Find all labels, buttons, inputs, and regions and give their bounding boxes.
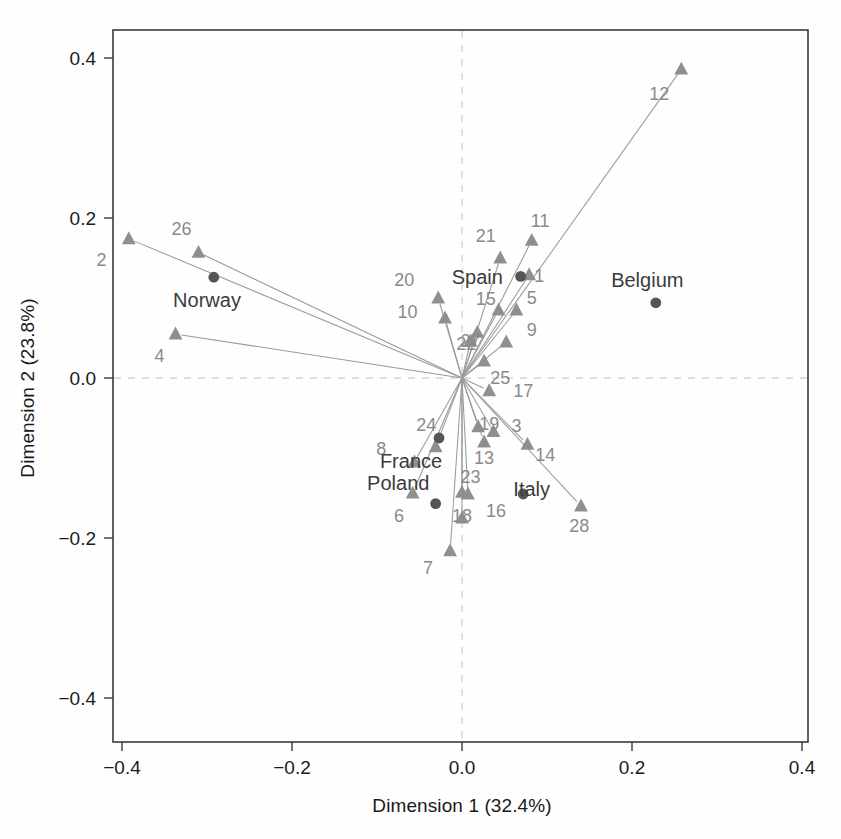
individual-label: Italy — [513, 478, 550, 500]
variable-label: 10 — [398, 302, 418, 322]
x-axis-title: Dimension 1 (32.4%) — [372, 795, 551, 816]
variable-label: 7 — [423, 558, 433, 578]
individual-label: Poland — [367, 472, 429, 494]
variable-label: 27 — [460, 331, 480, 351]
variable-label: 20 — [394, 270, 414, 290]
variable-label: 17 — [513, 381, 533, 401]
x-tick-label: −0.4 — [103, 757, 141, 778]
individual-marker-dot — [515, 271, 526, 282]
variable-marker-triangle — [443, 543, 457, 556]
variable-marker-triangle — [525, 233, 539, 246]
variable-marker-triangle — [499, 335, 513, 348]
y-tick-label: 0.0 — [70, 368, 96, 389]
zero-reference-lines — [114, 31, 807, 741]
variable-label: 9 — [527, 320, 537, 340]
variable-label: 14 — [535, 445, 555, 465]
variable-marker-triangle — [122, 231, 136, 244]
variable-label: 3 — [511, 416, 521, 436]
scatter-plot-canvas[interactable]: −0.4−0.20.00.20.4−0.4−0.20.00.20.4 22642… — [0, 0, 841, 839]
variable-label: 25 — [490, 368, 510, 388]
variable-label: 16 — [486, 501, 506, 521]
individual-labels: NorwaySpainBelgiumFrancePolandItaly — [173, 266, 683, 500]
individual-label: Spain — [452, 266, 503, 288]
variable-label: 11 — [531, 211, 550, 231]
plot-frame — [113, 30, 808, 742]
y-tick-label: 0.2 — [70, 208, 96, 229]
y-tick-label: −0.4 — [58, 688, 96, 709]
variable-label: 6 — [394, 506, 404, 526]
variable-label: 21 — [476, 226, 496, 246]
individual-marker-dot — [208, 272, 219, 283]
variable-marker-triangle — [169, 327, 183, 340]
individual-label: Belgium — [611, 269, 683, 291]
variable-label: 19 — [479, 414, 499, 434]
x-tick-label: 0.4 — [789, 757, 816, 778]
variable-label: 4 — [154, 346, 164, 366]
individual-markers — [208, 271, 661, 509]
axis-ticks — [104, 58, 802, 751]
variable-label: 12 — [649, 84, 669, 104]
individual-marker-dot — [430, 498, 441, 509]
individual-label: France — [380, 450, 442, 472]
variable-label: 15 — [476, 289, 496, 309]
individual-marker-dot — [434, 433, 445, 444]
variable-marker-triangle — [493, 251, 507, 264]
variable-label: 13 — [474, 448, 494, 468]
variable-label: 23 — [460, 467, 480, 487]
variable-marker-triangle — [192, 245, 206, 258]
individual-label: Norway — [173, 289, 241, 311]
variable-label: 1 — [534, 266, 544, 286]
variable-label: 28 — [569, 516, 589, 536]
biplot-figure: −0.4−0.20.00.20.4−0.4−0.20.00.20.4 22642… — [0, 0, 841, 839]
variable-label: 2 — [97, 250, 107, 270]
y-axis-title: Dimension 2 (23.8%) — [17, 298, 38, 477]
variable-marker-triangle — [438, 311, 452, 324]
x-tick-label: 0.2 — [619, 757, 645, 778]
y-tick-label: 0.4 — [70, 48, 97, 69]
variable-label: 26 — [171, 219, 191, 239]
variable-label: 18 — [452, 506, 472, 526]
x-tick-label: 0.0 — [449, 757, 475, 778]
x-tick-label: −0.2 — [273, 757, 311, 778]
variable-ray — [181, 335, 462, 378]
individual-marker-dot — [650, 297, 661, 308]
variable-label: 24 — [416, 415, 436, 435]
variable-ray — [204, 255, 462, 378]
variable-marker-triangle — [674, 62, 688, 75]
variable-label: 5 — [527, 288, 537, 308]
y-tick-label: −0.2 — [58, 528, 96, 549]
variable-marker-triangle — [431, 291, 445, 304]
axis-tick-labels: −0.4−0.20.00.20.4−0.4−0.20.00.20.4 — [58, 48, 815, 778]
plot-box-border — [113, 30, 808, 742]
